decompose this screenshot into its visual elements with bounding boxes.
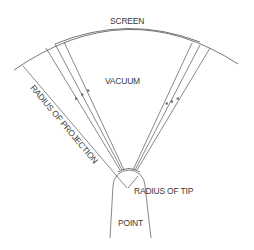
vacuum-label: VACUUM [105,76,140,86]
screen-label: SCREEN [110,16,144,26]
right-ray-group [133,43,210,170]
point-label: POINT [118,218,143,228]
radius-of-tip-label: RADIUS OF TIP [134,186,194,196]
fim-projection-diagram: SCREEN VACUUM RADIUS OF PROJECTION RADIU… [0,0,254,250]
screen-arc [14,28,238,70]
